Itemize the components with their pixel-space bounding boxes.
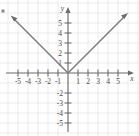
x-tick-label: 2 bbox=[86, 77, 90, 86]
y-tick-label: 3 bbox=[58, 39, 62, 48]
y-tick-label: -2 bbox=[57, 89, 63, 98]
y-tick-label: -5 bbox=[57, 119, 63, 128]
coordinate-plane-graph: -5 -4 -3 -2 -1 1 2 3 4 5 5 4 3 2 1 -2 -3… bbox=[0, 0, 139, 136]
x-tick-label: -4 bbox=[25, 77, 31, 86]
corner-mark-icon bbox=[2, 10, 5, 13]
x-tick-label: -1 bbox=[55, 77, 61, 86]
x-tick-label: 3 bbox=[96, 77, 100, 86]
y-axis-label: y bbox=[60, 4, 65, 13]
y-tick-label: 4 bbox=[58, 29, 62, 38]
y-tick-label: 5 bbox=[58, 19, 62, 28]
y-axis-tick-labels-negative: -2 -3 -4 -5 bbox=[57, 89, 63, 128]
y-tick-label: -4 bbox=[57, 109, 63, 118]
x-tick-label: 5 bbox=[116, 77, 120, 86]
x-tick-label: -3 bbox=[35, 77, 41, 86]
x-axis-label: x bbox=[129, 74, 134, 83]
x-tick-label: 4 bbox=[106, 77, 110, 86]
y-tick-label: -3 bbox=[57, 99, 63, 108]
y-axis-tick-labels-positive: 5 4 3 2 1 bbox=[58, 19, 62, 68]
x-tick-label: -5 bbox=[15, 77, 21, 86]
x-tick-label: 1 bbox=[76, 77, 80, 86]
x-tick-label: -2 bbox=[45, 77, 51, 86]
y-tick-label: 2 bbox=[58, 49, 62, 58]
graph-screenshot: -5 -4 -3 -2 -1 1 2 3 4 5 5 4 3 2 1 -2 -3… bbox=[0, 0, 139, 136]
